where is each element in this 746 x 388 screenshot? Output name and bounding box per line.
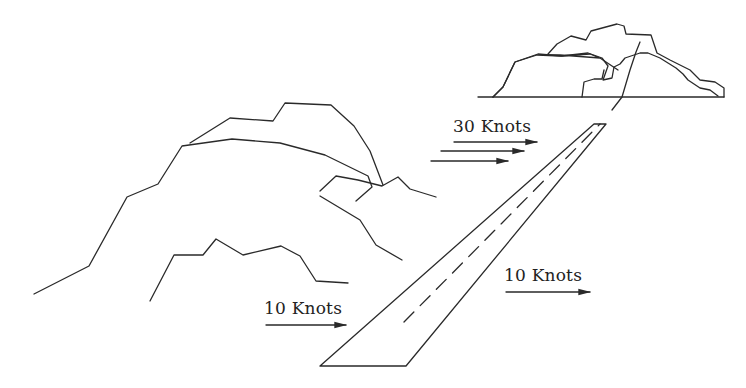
right-ridge [320,176,436,197]
distant-hills [478,24,724,110]
lower-right-wind-label: 10 Knots [504,265,582,285]
runway-outline [320,124,606,366]
lower-left-wind-label: 10 Knots [264,298,342,318]
right-hill-outline [493,53,718,97]
foothills-ridge [150,239,348,301]
runway [320,124,606,366]
left-hill-outline [493,54,618,97]
ridge-descending [320,196,402,260]
mountains [34,103,436,301]
mountain-ridge-front [34,139,372,294]
road-to-horizon [612,42,640,110]
wind-shear-diagram [0,0,746,388]
valley-outline [582,70,604,97]
mountain-ridge-back [190,103,383,185]
upper-wind-label: 30 Knots [453,116,531,136]
